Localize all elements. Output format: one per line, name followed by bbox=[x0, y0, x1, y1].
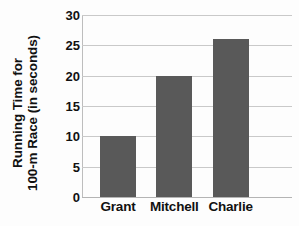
y-axis-tick-labels: 30 25 20 15 10 5 0 bbox=[56, 0, 80, 226]
bars-layer bbox=[82, 15, 292, 197]
y-tick-label-10: 10 bbox=[66, 130, 80, 143]
x-tick-label-mitchell: Mitchell bbox=[150, 199, 199, 214]
x-tick-label-grant: Grant bbox=[100, 199, 135, 214]
y-tick-label-20: 20 bbox=[66, 69, 80, 82]
y-tick-label-30: 30 bbox=[66, 9, 80, 22]
x-axis-tick-labels: Grant Mitchell Charlie bbox=[82, 199, 292, 221]
y-tick-label-0: 0 bbox=[73, 191, 80, 204]
y-axis-title-line-1: Running Time for bbox=[10, 35, 26, 191]
y-tick-label-5: 5 bbox=[73, 160, 80, 173]
bar-charlie[interactable] bbox=[213, 39, 249, 197]
bar-chart-figure: Running Time for 100-m Race (in seconds)… bbox=[0, 0, 299, 226]
x-tick-label-charlie: Charlie bbox=[208, 199, 252, 214]
y-axis-title-line-2: 100-m Race (in seconds) bbox=[25, 35, 41, 191]
bar-mitchell[interactable] bbox=[156, 76, 192, 197]
x-axis-baseline bbox=[82, 197, 292, 198]
bar-grant[interactable] bbox=[100, 136, 136, 197]
y-axis-title: Running Time for 100-m Race (in seconds) bbox=[0, 0, 56, 226]
y-tick-label-15: 15 bbox=[66, 100, 80, 113]
y-tick-label-25: 25 bbox=[66, 39, 80, 52]
plot-area bbox=[82, 15, 292, 197]
